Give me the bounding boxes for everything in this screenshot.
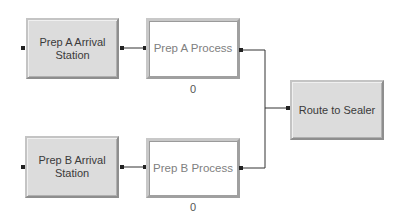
module-label: Prep B Arrival Station xyxy=(27,154,117,180)
module-label: Prep A Arrival Station xyxy=(28,36,117,62)
exit-port-prep-b-process[interactable] xyxy=(239,166,243,170)
wire-b-process-to-route xyxy=(241,108,265,168)
module-label: Prep A Process xyxy=(150,42,237,55)
module-label: Route to Sealer xyxy=(295,104,379,117)
module-route-to-sealer[interactable]: Route to Sealer xyxy=(290,80,384,140)
module-prep-a-process[interactable]: Prep A Process xyxy=(146,18,240,79)
module-prep-b-arrival-station[interactable]: Prep B Arrival Station xyxy=(25,136,119,198)
counter-prep-a-process: 0 xyxy=(183,83,203,95)
module-prep-b-process[interactable]: Prep B Process xyxy=(146,138,240,198)
exit-port-prep-a-process[interactable] xyxy=(239,48,243,52)
module-prep-a-arrival-station[interactable]: Prep A Arrival Station xyxy=(26,18,119,79)
exit-port-prep-a-arrival[interactable] xyxy=(120,46,124,50)
module-label: Prep B Process xyxy=(149,162,237,175)
counter-prep-b-process: 0 xyxy=(183,201,203,213)
entry-port-prep-a-arrival[interactable] xyxy=(21,46,25,50)
wire-a-process-to-route xyxy=(241,50,287,108)
exit-port-prep-b-arrival[interactable] xyxy=(120,165,124,169)
